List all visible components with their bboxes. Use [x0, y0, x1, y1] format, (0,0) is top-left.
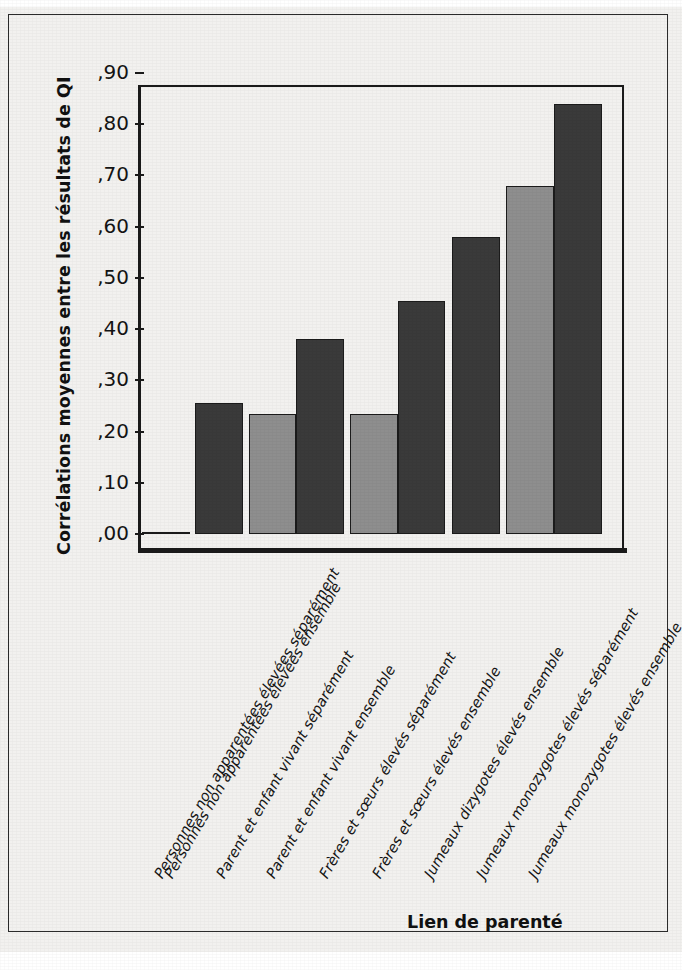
y-tick-mark [135, 379, 144, 381]
y-tick-label: ,60 [71, 214, 129, 238]
bar-zero [142, 532, 190, 534]
y-tick-mark [135, 328, 144, 330]
bar [350, 414, 398, 534]
y-tick-label: ,90 [71, 60, 129, 84]
x-axis-title: Lien de parenté [407, 912, 563, 932]
y-tick-label: ,70 [71, 162, 129, 186]
bar [506, 186, 554, 534]
y-tick-mark [135, 123, 144, 125]
paper-edge-top [0, 0, 682, 7]
y-tick-label: ,00 [71, 521, 129, 545]
y-tick-label: ,30 [71, 367, 129, 391]
y-tick-mark [135, 174, 144, 176]
y-tick-label: ,10 [71, 470, 129, 494]
y-tick-mark [135, 431, 144, 433]
y-tick-mark [135, 277, 144, 279]
y-tick-label: ,40 [71, 316, 129, 340]
bar [249, 414, 296, 534]
bar [296, 339, 344, 534]
bar [452, 237, 500, 534]
y-tick-label: ,80 [71, 111, 129, 135]
y-axis-line [138, 85, 141, 550]
y-tick-mark [135, 482, 144, 484]
bar [195, 403, 243, 534]
y-tick-mark [135, 72, 144, 74]
figure-border: Corrélations moyennes entre les résultat… [8, 14, 668, 932]
figure-canvas: Corrélations moyennes entre les résultat… [0, 0, 682, 970]
y-tick-label: ,50 [71, 265, 129, 289]
bar [554, 104, 602, 534]
paper-edge-bottom [0, 952, 682, 970]
y-tick-mark [135, 226, 144, 228]
x-axis-line [138, 548, 627, 553]
y-tick-label: ,20 [71, 419, 129, 443]
bar [398, 301, 445, 534]
